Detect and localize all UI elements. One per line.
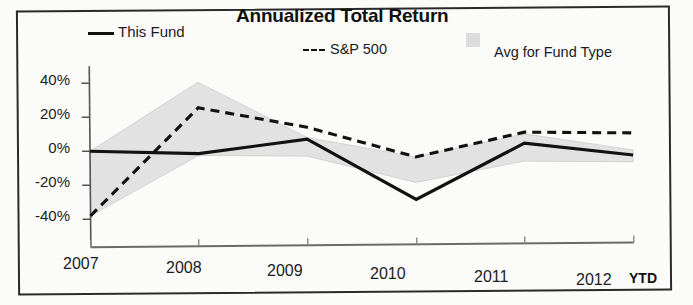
y-axis-line bbox=[89, 66, 91, 247]
x-axis-line bbox=[91, 242, 634, 247]
chart-plot-area bbox=[0, 0, 693, 305]
chart-figure: Annualized Total Return This Fund S&P 50… bbox=[0, 0, 693, 305]
